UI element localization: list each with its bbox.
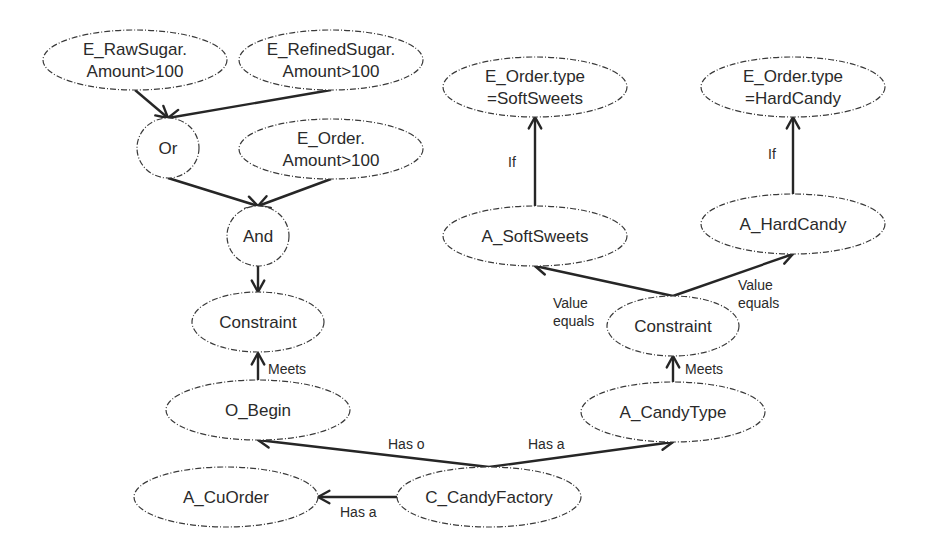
node-and: And bbox=[227, 206, 289, 266]
edge-line bbox=[673, 254, 793, 296]
edge-line bbox=[168, 90, 331, 118]
node-constraint-left: Constraint bbox=[192, 292, 324, 352]
edge-c_candyfactory-to-a_cuorder: Has a bbox=[318, 491, 397, 520]
node-label: E_Order. bbox=[297, 129, 365, 148]
node-o-begin: O_Begin bbox=[166, 380, 350, 440]
node-label: =HardCandy bbox=[745, 89, 841, 108]
edge-line bbox=[489, 442, 673, 467]
node-or: Or bbox=[137, 118, 199, 178]
diagram-canvas: MeetsHas oHas aHas aMeetsValueequalsValu… bbox=[0, 0, 926, 557]
node-label: And bbox=[243, 227, 273, 246]
node-label: Or bbox=[159, 139, 178, 158]
edge-raw_sugar-to-or bbox=[135, 90, 168, 118]
edge-c_candyfactory-to-o_begin: Has o bbox=[258, 435, 489, 467]
node-label: Constraint bbox=[219, 313, 297, 332]
edge-or-to-and bbox=[168, 178, 258, 209]
edge-label: If bbox=[508, 154, 516, 170]
ellipse-shape bbox=[701, 57, 885, 117]
node-label: Constraint bbox=[634, 317, 712, 336]
edge-line bbox=[168, 178, 258, 206]
node-label: =SoftSweets bbox=[487, 89, 583, 108]
edge-a_candytype-to-constraint_right: Meets bbox=[667, 356, 723, 382]
edge-label: Has a bbox=[340, 504, 377, 520]
ellipse-shape bbox=[239, 119, 423, 179]
node-label: A_CandyType bbox=[620, 403, 727, 422]
edge-label: Valueequals bbox=[738, 277, 779, 311]
edge-line bbox=[535, 266, 673, 296]
edge-label: Meets bbox=[268, 361, 306, 377]
edge-label: Meets bbox=[685, 361, 723, 377]
node-order-type-soft: E_Order.type=SoftSweets bbox=[443, 57, 627, 117]
node-label: E_Order.type bbox=[743, 67, 843, 86]
edge-refined_sugar-to-or bbox=[168, 90, 331, 122]
edge-line bbox=[258, 440, 489, 467]
edge-label: If bbox=[768, 146, 776, 162]
ellipse-shape bbox=[239, 30, 423, 90]
edge-a_hardcandy-to-order_type_hard: If bbox=[768, 117, 799, 194]
node-label: A_SoftSweets bbox=[482, 227, 589, 246]
node-label: O_Begin bbox=[225, 401, 291, 420]
edge-o_begin-to-constraint_left: Meets bbox=[252, 353, 306, 380]
edge-label: Valueequals bbox=[553, 295, 594, 329]
node-label: Amount>100 bbox=[87, 62, 184, 81]
edge-line bbox=[258, 179, 331, 206]
node-raw-sugar: E_RawSugar.Amount>100 bbox=[43, 30, 227, 90]
edge-label: Has a bbox=[528, 436, 565, 452]
node-a-cuorder: A_CuOrder bbox=[134, 467, 318, 527]
ellipse-shape bbox=[443, 57, 627, 117]
edge-order_amount-to-and bbox=[258, 179, 331, 208]
node-label: Amount>100 bbox=[283, 62, 380, 81]
node-label: E_Order.type bbox=[485, 67, 585, 86]
node-a-softsweets: A_SoftSweets bbox=[443, 206, 627, 266]
node-label: E_RawSugar. bbox=[83, 40, 187, 59]
node-refined-sugar: E_RefinedSugar.Amount>100 bbox=[239, 30, 423, 90]
edge-label: Has o bbox=[388, 436, 425, 452]
node-label: E_RefinedSugar. bbox=[267, 40, 396, 59]
node-label: C_CandyFactory bbox=[425, 488, 553, 507]
node-order-amount: E_Order.Amount>100 bbox=[239, 119, 423, 179]
edge-a_softsweets-to-order_type_soft: If bbox=[508, 117, 541, 206]
node-c-candyfactory: C_CandyFactory bbox=[397, 467, 581, 527]
node-label: A_HardCandy bbox=[740, 215, 847, 234]
ellipse-shape bbox=[43, 30, 227, 90]
edge-line bbox=[135, 90, 168, 118]
node-label: Amount>100 bbox=[283, 151, 380, 170]
node-label: A_CuOrder bbox=[183, 488, 269, 507]
node-constraint-right: Constraint bbox=[607, 296, 739, 356]
node-a-candytype: A_CandyType bbox=[581, 382, 765, 442]
node-order-type-hard: E_Order.type=HardCandy bbox=[701, 57, 885, 117]
node-a-hardcandy: A_HardCandy bbox=[701, 194, 885, 254]
edge-and-to-constraint_left bbox=[252, 266, 264, 292]
